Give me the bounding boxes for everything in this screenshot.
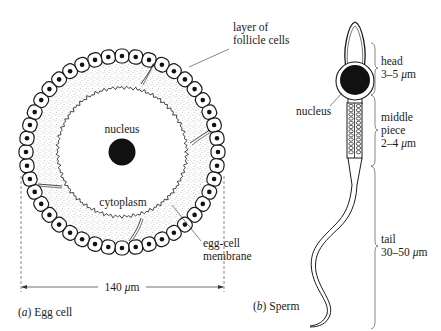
follicle-cell-nucleus	[172, 69, 177, 74]
follicle-label-line2: follicle cells	[233, 34, 290, 46]
follicle-cell-nucleus	[28, 123, 33, 128]
follicle-cell-nucleus	[192, 87, 197, 92]
head-label: head	[381, 55, 403, 67]
follicle-cell-nucleus	[207, 190, 212, 195]
follicle-leader-line	[189, 49, 229, 67]
follicle-cell-nucleus	[93, 242, 98, 247]
follicle-cell-nucleus	[80, 62, 85, 67]
follicle-cell-nucleus	[172, 231, 177, 236]
follicle-cell-nucleus	[201, 202, 206, 207]
sperm-tail	[310, 158, 352, 326]
follicle-cell-nucleus	[39, 202, 44, 207]
middle-piece-size-label: 2–4 μm	[381, 137, 416, 150]
sperm-caption: (b) Sperm	[253, 300, 299, 313]
egg-and-sperm-diagram: nucleus cytoplasm layer of follicle cell…	[0, 0, 441, 331]
follicle-cell-nucleus	[183, 77, 188, 82]
follicle-cell-nucleus	[216, 150, 221, 155]
follicle-cell-nucleus	[147, 242, 152, 247]
membrane-label-line2: membrane	[203, 250, 252, 262]
follicle-cell-nucleus	[215, 163, 220, 168]
follicle-label-line1: layer of	[233, 21, 269, 34]
sperm-nucleus-leader	[330, 93, 342, 106]
egg-nucleus	[109, 139, 136, 166]
follicle-cell-nucleus	[160, 62, 165, 67]
follicle-cell-nucleus	[24, 150, 29, 155]
cytoplasm-label: cytoplasm	[99, 196, 146, 209]
middle-piece-label-line2: piece	[381, 124, 405, 137]
follicle-cell-nucleus	[106, 245, 111, 250]
follicle-cell-nucleus	[32, 110, 37, 115]
dimension-arrowhead-left	[21, 285, 27, 289]
follicle-cell-nucleus	[28, 177, 33, 182]
membrane-label-line1: egg-cell	[203, 237, 240, 250]
follicle-cell-nucleus	[93, 58, 98, 63]
follicle-cell-nucleus	[47, 87, 52, 92]
follicle-cell-nucleus	[68, 69, 73, 74]
follicle-cell-nucleus	[25, 163, 30, 168]
follicle-cell-nucleus	[133, 55, 138, 60]
follicle-cell-nucleus	[147, 58, 152, 63]
follicle-cell-nucleus	[160, 237, 165, 242]
follicle-cell-nucleus	[68, 231, 73, 236]
egg-caption: (a) Egg cell	[18, 306, 72, 319]
follicle-cell-nucleus	[57, 77, 62, 82]
sperm-nucleus	[340, 65, 370, 95]
follicle-cell-nucleus	[212, 177, 217, 182]
head-size-label: 3–5 μm	[381, 68, 416, 81]
follicle-cell-nucleus	[201, 98, 206, 103]
middle-piece-brace	[371, 95, 378, 166]
follicle-cell-nucleus	[133, 245, 138, 250]
follicle-cell-nucleus	[120, 246, 125, 251]
follicle-cell-nucleus	[106, 55, 111, 60]
follicle-cell-nucleus	[47, 213, 52, 218]
dimension-arrowhead-right	[218, 285, 224, 289]
tail-size-label: 30–50 μm	[381, 246, 427, 259]
egg-nucleus-label: nucleus	[104, 123, 140, 135]
sperm-nucleus-label: nucleus	[296, 105, 332, 117]
middle-piece-label-line1: middle	[381, 111, 413, 123]
egg-cell: nucleus cytoplasm layer of follicle cell…	[18, 21, 290, 319]
tail-label: tail	[381, 233, 396, 245]
sperm: nucleus head 3–5 μm middle piece 2–4 μm …	[253, 22, 427, 329]
follicle-cell-nucleus	[57, 222, 62, 227]
sperm-tail	[310, 158, 362, 327]
dimension-label: 140 μm	[105, 281, 140, 294]
follicle-cell-nucleus	[39, 98, 44, 103]
follicle-cell-nucleus	[120, 54, 125, 59]
follicle-cell-nucleus	[192, 213, 197, 218]
follicle-cell-nucleus	[212, 123, 217, 128]
follicle-cell-nucleus	[25, 136, 30, 141]
follicle-cell-nucleus	[207, 110, 212, 115]
follicle-cell-nucleus	[215, 136, 220, 141]
tail-brace	[371, 166, 378, 329]
follicle-cell-nucleus	[32, 190, 37, 195]
follicle-cell-nucleus	[80, 237, 85, 242]
